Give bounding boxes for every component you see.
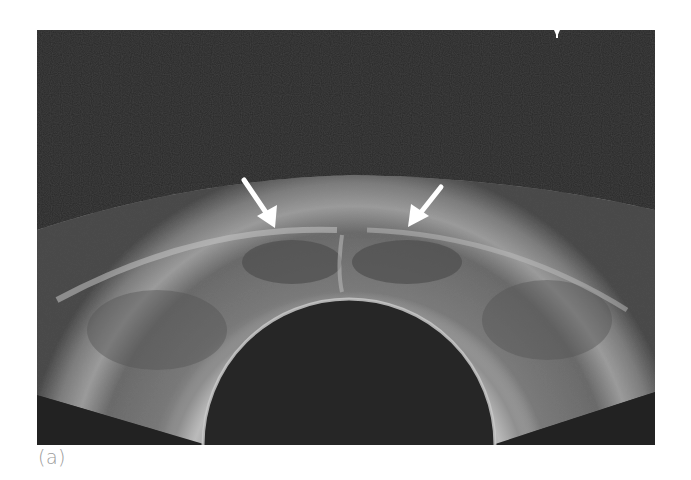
figure-caption: (a) [38,446,66,468]
ultrasound-image [37,30,655,445]
ultrasound-scan-graphic [37,30,655,445]
